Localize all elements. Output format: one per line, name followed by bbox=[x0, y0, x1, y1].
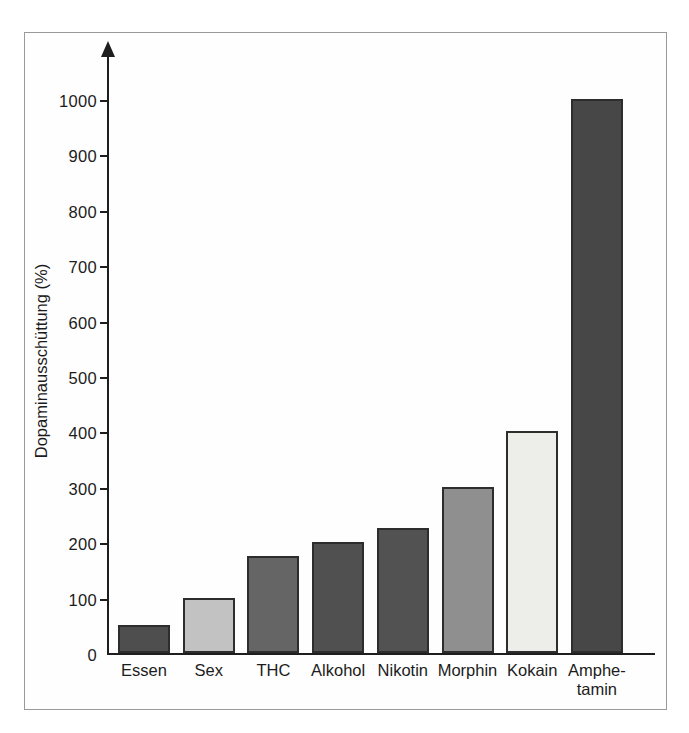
y-tick-label: 1000 bbox=[47, 92, 97, 111]
y-tick-label: 100 bbox=[47, 590, 97, 609]
bar-alkohol bbox=[312, 542, 364, 653]
y-tick-label: 700 bbox=[47, 258, 97, 277]
y-tick-label: 300 bbox=[47, 479, 97, 498]
y-tick bbox=[100, 432, 108, 434]
y-tick-label: 0 bbox=[47, 646, 97, 665]
y-tick bbox=[100, 488, 108, 490]
y-tick bbox=[100, 211, 108, 213]
y-tick-label: 800 bbox=[47, 202, 97, 221]
x-axis-label-amphetamin: Amphe-tamin bbox=[559, 661, 635, 699]
bar-amphetamin bbox=[571, 99, 623, 653]
y-tick bbox=[100, 100, 108, 102]
y-tick-label: 200 bbox=[47, 535, 97, 554]
bar-sex bbox=[183, 598, 235, 653]
y-tick bbox=[100, 266, 108, 268]
y-tick bbox=[100, 599, 108, 601]
plot-area: 01002003004005006007008009001000 EssenSe… bbox=[25, 33, 666, 709]
y-tick-label: 500 bbox=[47, 369, 97, 388]
bar-kokain bbox=[506, 431, 558, 653]
y-tick bbox=[100, 377, 108, 379]
y-tick-label: 900 bbox=[47, 147, 97, 166]
y-axis-title: Dopaminausschüttung (%) bbox=[32, 241, 52, 481]
y-axis-line bbox=[107, 55, 109, 655]
chart-frame: 01002003004005006007008009001000 EssenSe… bbox=[24, 32, 667, 710]
y-tick bbox=[100, 322, 108, 324]
bar-essen bbox=[118, 625, 170, 653]
bar-thc bbox=[247, 556, 299, 653]
bar-morphin bbox=[442, 487, 494, 653]
y-tick-label: 600 bbox=[47, 313, 97, 332]
y-tick bbox=[100, 155, 108, 157]
y-tick-label: 400 bbox=[47, 424, 97, 443]
x-axis-line bbox=[108, 653, 655, 655]
bar-nikotin bbox=[377, 528, 429, 653]
y-tick bbox=[100, 543, 108, 545]
